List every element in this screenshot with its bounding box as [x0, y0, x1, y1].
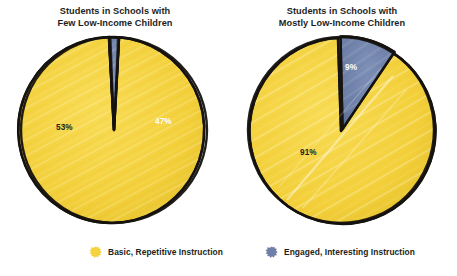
legend-label: Engaged, Interesting Instruction	[284, 247, 415, 257]
legend-item-basic-repetitive[interactable]: Basic, Repetitive Instruction	[89, 244, 223, 260]
pie-chart-mostly-low-income	[243, 32, 439, 228]
chart-title-line-2: Few Low-Income Children	[10, 18, 220, 30]
legend-item-engaged-interesting[interactable]: Engaged, Interesting Instruction	[265, 244, 415, 260]
legend-swatch-blue-icon	[265, 246, 278, 259]
legend-swatch-yellow-icon	[89, 246, 102, 259]
chart-legend: Basic, Repetitive Instruction Engaged, I…	[0, 243, 457, 265]
legend-label: Basic, Repetitive Instruction	[108, 247, 223, 257]
chart-title-line-1: Students in Schools with	[10, 6, 220, 18]
chart-title-mostly-low-income: Students in Schools with Mostly Low-Inco…	[237, 6, 447, 29]
chart-title-line-1: Students in Schools with	[237, 6, 447, 18]
pie-svg-left	[16, 32, 212, 228]
pie-chart-few-low-income	[16, 32, 212, 228]
chart-title-few-low-income: Students in Schools with Few Low-Income …	[10, 6, 220, 29]
chart-title-line-2: Mostly Low-Income Children	[237, 18, 447, 30]
pie-chart-figure: Students in Schools with Few Low-Income …	[0, 0, 457, 276]
pie-svg-right	[243, 32, 439, 228]
